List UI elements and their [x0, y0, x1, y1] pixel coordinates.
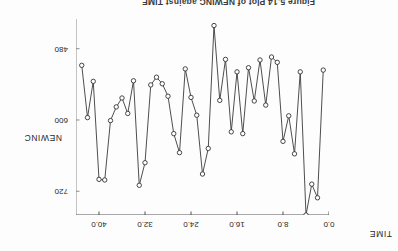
chart-svg — [76, 19, 329, 215]
data-point — [315, 196, 319, 200]
data-point — [310, 182, 314, 186]
figure-caption: Figure 5.14 Plot of NEWINC against TIME — [142, 0, 315, 7]
data-point — [206, 146, 210, 150]
data-point — [160, 82, 164, 86]
x-tick-label: 24.0 — [175, 220, 207, 229]
figure-page: Figure 5.14 Plot of NEWINC against TIME … — [0, 0, 398, 251]
x-axis-title: TIME — [369, 229, 392, 239]
data-point — [200, 172, 204, 176]
data-point — [212, 23, 216, 27]
x-tick-label: 16.0 — [221, 220, 253, 229]
y-tick-label: 600 — [55, 116, 68, 125]
data-point — [287, 114, 291, 118]
data-point — [149, 83, 153, 87]
x-tick-label: 0.0 — [313, 220, 345, 229]
x-tick-label: 32.0 — [129, 220, 161, 229]
y-tick-label: 480 — [55, 45, 68, 54]
data-point — [154, 75, 158, 79]
data-point — [172, 131, 176, 135]
data-point — [269, 55, 273, 59]
data-point — [304, 213, 308, 215]
data-point — [189, 95, 193, 99]
data-point — [177, 150, 181, 154]
data-point — [235, 70, 239, 74]
data-point — [166, 94, 170, 98]
data-point — [85, 115, 89, 119]
data-point — [195, 113, 199, 117]
data-point — [264, 103, 268, 107]
data-point — [298, 70, 302, 74]
data-point — [114, 105, 118, 109]
data-point — [108, 118, 112, 122]
data-point — [91, 79, 95, 83]
data-point — [218, 98, 222, 102]
data-point — [246, 66, 250, 70]
rotated-figure-container: Figure 5.14 Plot of NEWINC against TIME … — [0, 0, 398, 251]
data-point — [252, 99, 256, 103]
data-point — [275, 60, 279, 64]
data-points — [80, 23, 326, 215]
y-tick-label: 720 — [55, 187, 68, 196]
data-point — [131, 79, 135, 83]
data-point — [137, 183, 141, 187]
data-point — [223, 57, 227, 61]
y-axis-ticks — [76, 49, 80, 192]
data-point — [143, 161, 147, 165]
data-point — [103, 178, 107, 182]
plot-area — [76, 19, 329, 215]
data-point — [126, 111, 130, 115]
data-point — [241, 131, 245, 135]
data-point — [281, 139, 285, 143]
data-point — [183, 67, 187, 71]
x-axis-ticks — [99, 212, 329, 216]
data-point — [292, 152, 296, 156]
data-point — [229, 130, 233, 134]
y-axis-title: NEWINC — [24, 133, 62, 143]
data-point — [97, 177, 101, 181]
data-point — [258, 58, 262, 62]
x-tick-label: 8.0 — [267, 220, 299, 229]
data-point — [120, 96, 124, 100]
data-line — [82, 26, 324, 215]
data-point — [321, 68, 325, 72]
x-tick-label: 40.0 — [83, 220, 115, 229]
data-point — [80, 63, 84, 67]
